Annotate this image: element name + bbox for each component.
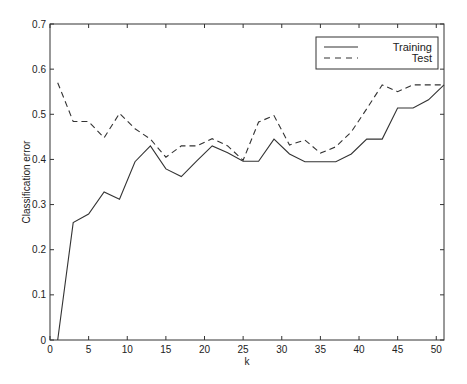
y-tick-label: 0.6 [32, 64, 46, 75]
y-axis-label: Classification error [21, 140, 32, 223]
x-axis-label: k [245, 356, 251, 367]
x-tick-label: 0 [47, 344, 53, 355]
x-tick-label: 15 [160, 344, 172, 355]
y-tick-label: 0.4 [32, 154, 46, 165]
x-tick-label: 35 [315, 344, 327, 355]
legend: TrainingTest [316, 37, 438, 69]
y-tick-label: 0.3 [32, 199, 46, 210]
x-tick-label: 30 [276, 344, 288, 355]
series-line-test [58, 83, 444, 161]
x-tick-label: 40 [353, 344, 365, 355]
y-tick-label: 0.7 [32, 19, 46, 30]
line-chart: 05101520253035404550 00.10.20.30.40.50.6… [0, 0, 467, 384]
plot-area-border [50, 24, 444, 340]
x-tick-label: 50 [431, 344, 443, 355]
y-tick-label: 0.5 [32, 109, 46, 120]
x-tick-label: 25 [238, 344, 250, 355]
legend-label-test: Test [412, 52, 432, 64]
x-tick-label: 20 [199, 344, 211, 355]
series-line-training [58, 85, 444, 340]
y-tick-label: 0 [40, 335, 46, 346]
y-tick-label: 0.1 [32, 289, 46, 300]
y-tick-label: 0.2 [32, 244, 46, 255]
x-tick-label: 5 [86, 344, 92, 355]
x-tick-label: 10 [122, 344, 134, 355]
x-tick-label: 45 [392, 344, 404, 355]
